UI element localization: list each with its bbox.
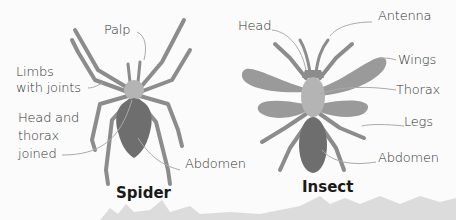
label-spider-abdomen: Abdomen [185,156,246,172]
label-insect-head: Head [238,18,271,34]
insect-thorax [301,77,325,117]
label-palp: Palp [104,22,130,38]
insect-title: Insect [302,178,353,196]
label-head-thorax-line2: thorax [18,128,59,144]
label-head-thorax-line1: Head and [18,110,79,126]
insect-drawing [242,40,386,173]
spider-title: Spider [116,184,171,202]
label-legs: Legs [404,114,433,130]
spider-insect-diagram: Palp Limbs with joints Head and thorax j… [0,0,456,220]
label-wings: Wings [398,52,436,68]
label-antenna: Antenna [378,8,431,24]
spider-cephalothorax [124,80,144,100]
label-head-thorax-line3: joined [18,146,56,162]
label-insect-abdomen: Abdomen [378,150,439,166]
insect-head [302,70,324,78]
insect-abdomen [299,117,327,173]
label-thorax: Thorax [396,82,440,98]
label-limbs-line2: with joints [16,80,81,96]
label-limbs-line1: Limbs [16,64,54,80]
